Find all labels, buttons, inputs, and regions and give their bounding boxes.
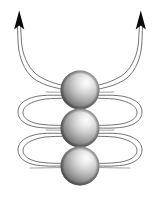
spheres-group [61, 71, 100, 186]
sphere-bottom-rim [61, 147, 100, 186]
sphere-middle [61, 109, 100, 148]
sphere-top [61, 71, 100, 110]
sphere-bottom [61, 147, 100, 186]
sphere-middle-rim [61, 109, 100, 148]
sphere-top-rim [61, 71, 100, 110]
field-diagram-svg [0, 0, 160, 200]
figure-root [0, 0, 160, 200]
